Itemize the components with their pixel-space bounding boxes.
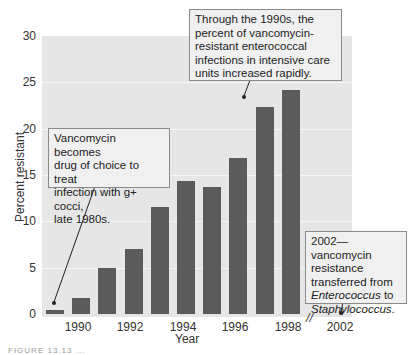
callout-line: drug of choice to treat xyxy=(54,159,164,186)
figure-caption: FIGURE 13.13 ... xyxy=(8,346,85,355)
callout-text: to xyxy=(381,289,394,301)
genus-enterococcus: Enterococcus xyxy=(311,289,381,301)
callout-late-1980s: Vancomycin becomes drug of choice to tre… xyxy=(48,128,170,188)
callout-line: Enterococcus to xyxy=(311,289,401,303)
callout-line: late 1980s. xyxy=(54,213,164,227)
callout-line: Through the 1990s, the xyxy=(195,13,336,27)
callout-line: units increased rapidly. xyxy=(195,67,336,81)
callout-line: infections in intensive care xyxy=(195,54,336,68)
callout-line: Vancomycin becomes xyxy=(54,132,164,159)
callout-line: 2002—vancomycin xyxy=(311,235,401,262)
callout-line: infection with g+ cocci, xyxy=(54,186,164,213)
callout-text: . xyxy=(392,303,395,315)
genus-staphylococcus: Staphylococcus xyxy=(311,303,392,315)
callout-line: resistant enterococcal xyxy=(195,40,336,54)
callout-line: transferred from xyxy=(311,276,401,290)
callout-line: resistance xyxy=(311,262,401,276)
callout-line: Staphylococcus. xyxy=(311,303,401,317)
callout-line: percent of vancomycin- xyxy=(195,27,336,41)
callout-1990s: Through the 1990s, the percent of vancom… xyxy=(189,9,342,81)
callout-2002: 2002—vancomycin resistance transferred f… xyxy=(305,231,407,304)
